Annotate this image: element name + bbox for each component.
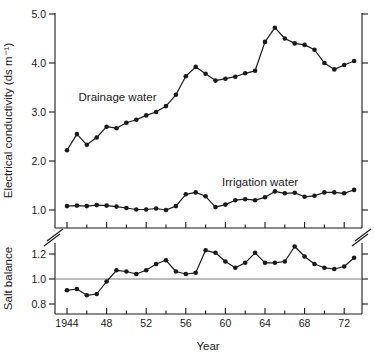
data-point-marker [94,135,99,140]
data-point-marker [342,191,347,196]
data-point-marker [65,204,70,209]
data-point-marker [322,190,327,195]
data-point-marker [144,207,149,212]
data-point-marker [253,251,258,256]
data-point-marker [223,76,228,81]
axis-break-slash [47,229,63,241]
data-point-marker [273,189,278,194]
panel-salt-balance: 0.81.01.2194448525660646872Salt balance [2,243,368,329]
data-point-marker [322,61,327,66]
data-point-marker [154,110,159,115]
x-tick-label: 60 [220,317,232,329]
y-tick-label: 0.8 [31,298,46,310]
data-point-marker [104,124,109,129]
data-point-marker [75,132,80,137]
data-point-marker [312,262,317,267]
data-point-marker [302,43,307,48]
data-point-marker [134,118,139,123]
y-tick-label: 1.0 [31,273,46,285]
x-tick-label: 48 [101,317,113,329]
x-tick-label: 68 [299,317,311,329]
data-point-marker [124,269,129,274]
data-point-marker [292,41,297,46]
x-tick-label: 1944 [55,317,79,329]
data-point-marker [292,244,297,249]
data-point-marker [184,272,189,277]
data-point-marker [193,190,198,195]
axis-break-slash [352,234,368,246]
chart-canvas: 1.02.03.04.05.0Drainage waterIrrigation … [0,0,374,362]
data-point-marker [124,121,129,126]
data-point-marker [223,202,228,207]
dual-panel-line-chart: 1.02.03.04.05.0Drainage waterIrrigation … [0,0,374,362]
data-point-marker [114,268,119,273]
data-point-marker [174,204,179,209]
data-point-marker [263,40,268,45]
y-tick-label: 1.0 [31,204,46,216]
data-point-marker [352,59,357,64]
data-point-marker [144,113,149,118]
data-point-marker [154,206,159,211]
data-point-marker [164,258,169,263]
data-point-marker [174,93,179,98]
data-point-marker [154,262,159,267]
data-point-marker [263,195,268,200]
data-point-marker [184,74,189,79]
data-point-marker [283,36,288,41]
data-point-marker [263,261,268,266]
data-point-marker [213,251,218,256]
data-point-marker [193,271,198,276]
data-point-marker [85,143,90,148]
axis-break-icon [44,229,371,246]
data-point-marker [144,268,149,273]
data-point-marker [302,254,307,259]
series-salt-balance [65,244,357,297]
data-point-marker [312,194,317,199]
data-point-marker [243,261,248,266]
x-tick-label: 64 [259,317,271,329]
data-point-marker [213,78,218,83]
data-point-marker [233,266,238,271]
y-tick-label: 4.0 [31,57,46,69]
data-point-marker [342,63,347,68]
x-axis-title: Year [196,340,219,352]
data-point-marker [253,69,258,74]
series-label: Drainage water [79,91,157,103]
data-point-marker [134,272,139,277]
axis-break-slash [44,234,60,246]
data-point-marker [174,269,179,274]
data-point-marker [203,72,208,77]
data-point-marker [273,261,278,266]
data-point-marker [292,191,297,196]
series-line [67,28,354,151]
data-point-marker [94,203,99,208]
data-point-marker [243,71,248,76]
x-tick-label: 52 [140,317,152,329]
data-point-marker [322,266,327,271]
data-point-marker [233,74,238,79]
data-point-marker [332,190,337,195]
data-point-marker [65,288,70,293]
data-point-marker [213,205,218,210]
y-axis-title: Salt balance [2,247,14,310]
data-point-marker [283,259,288,264]
y-axis-title: Electrical conductivity (ds m⁻¹) [2,43,14,199]
data-point-marker [114,126,119,131]
y-tick-label: 2.0 [31,155,46,167]
data-point-marker [203,194,208,199]
data-point-marker [184,192,189,197]
axis-break-slash [355,229,371,241]
data-point-marker [164,104,169,109]
y-tick-label: 3.0 [31,106,46,118]
y-tick-label: 1.2 [31,248,46,260]
data-point-marker [104,279,109,284]
data-point-marker [233,198,238,203]
data-point-marker [203,248,208,253]
data-point-marker [352,255,357,260]
data-point-marker [283,191,288,196]
panel-electrical-conductivity: 1.02.03.04.05.0Drainage waterIrrigation … [2,8,368,229]
series-drainage-water: Drainage water [65,25,357,152]
data-point-marker [75,287,80,292]
data-point-marker [124,206,129,211]
data-point-marker [332,67,337,72]
